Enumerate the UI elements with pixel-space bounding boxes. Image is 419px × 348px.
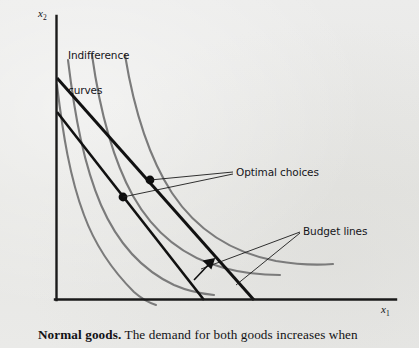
- budget-lines-label: Budget lines: [303, 226, 367, 238]
- indifference-curves-label-line1: Indifference: [68, 50, 129, 62]
- y-axis-label: x2: [38, 7, 47, 22]
- optimal-choices-label: Optimal choices: [236, 167, 319, 179]
- x-axis-label: x1: [381, 303, 390, 318]
- indifference-curve-figure: [0, 0, 419, 348]
- caption-strong: Normal goods.: [38, 327, 121, 342]
- budget-lines-leader-lower: [236, 233, 300, 285]
- figure-caption: Normal goods. The demand for both goods …: [38, 327, 398, 343]
- indifference-curve-4: [125, 55, 333, 265]
- shift-arrow-head: [204, 259, 214, 268]
- optimal-choices-leaders: [123, 172, 233, 197]
- indifference-curves-label: Indifference curves: [68, 27, 129, 119]
- indifference-curves-label-line2: curves: [68, 85, 129, 97]
- figure-page: x2 x1 Indifference curves Optimal choice…: [0, 0, 419, 348]
- caption-rest: The demand for both goods increases when: [121, 327, 357, 342]
